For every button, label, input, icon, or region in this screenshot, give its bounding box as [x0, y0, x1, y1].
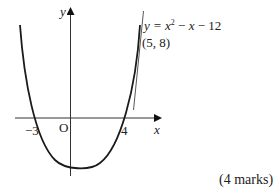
y-axis-label: y	[60, 5, 66, 18]
x-axis-label: x	[154, 123, 160, 136]
tangent-line	[134, 11, 144, 110]
equation-label: y = x2 − x − 12	[144, 19, 221, 32]
equation-tail: − 12	[194, 18, 221, 33]
graph-canvas	[0, 0, 279, 190]
root-label-left: −3	[25, 124, 39, 137]
marks-label: (4 marks)	[219, 172, 273, 188]
point-label: (5, 8)	[142, 36, 170, 49]
equation-lhs: y =	[144, 18, 165, 33]
equation-minus: −	[175, 18, 189, 33]
parabola-curve	[20, 25, 140, 168]
origin-label: O	[59, 121, 68, 134]
root-label-right: 4	[121, 124, 128, 137]
